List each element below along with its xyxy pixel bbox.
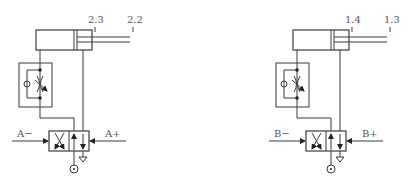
signal-label-a-plus: A+ — [104, 128, 121, 139]
port-label-2-3: 2.3 — [88, 14, 104, 25]
directional-valve-right: B− B+ — [269, 128, 383, 173]
signal-label-a-minus: A− — [16, 128, 33, 139]
cylinder-left: 2.3 2.2 — [36, 14, 143, 50]
exhaust-icon — [79, 157, 87, 162]
exhaust-icon — [336, 157, 344, 162]
cylinder-right: 1.4 1.3 — [293, 14, 400, 50]
flow-control-valve-right — [276, 50, 309, 118]
signal-label-b-plus: B+ — [362, 128, 378, 139]
port-label-1-3: 1.3 — [384, 14, 400, 25]
circuit-right: 1.4 1.3 B− — [269, 14, 400, 173]
circuit-left: 2.3 2.2 — [12, 14, 143, 173]
pneumatic-diagram: 2.3 2.2 — [0, 0, 407, 187]
port-label-1-4: 1.4 — [345, 14, 361, 25]
flow-control-valve-left — [19, 50, 52, 118]
signal-label-b-minus: B− — [274, 128, 290, 139]
port-label-2-2: 2.2 — [127, 14, 143, 25]
directional-valve-left: A− A+ — [12, 128, 126, 173]
